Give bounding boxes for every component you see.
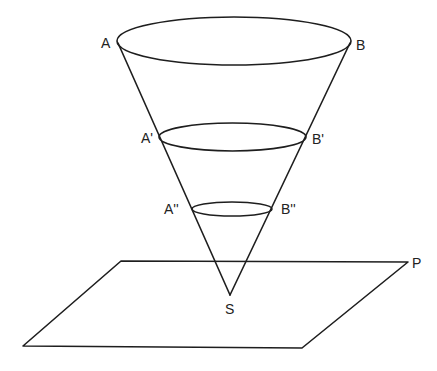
section-a2b2-ellipse: [192, 202, 272, 216]
plane-p: [23, 261, 408, 348]
label-p-plane: P: [412, 255, 421, 271]
cone-left-generatrix: [118, 43, 230, 295]
label-a-double-prime: A'': [164, 201, 179, 217]
cone-right-generatrix: [230, 43, 350, 295]
label-b-prime: B': [312, 131, 324, 147]
label-s-apex: S: [225, 301, 234, 317]
label-a: A: [101, 35, 111, 51]
section-a1b1-ellipse: [159, 123, 306, 151]
label-a-prime: A': [141, 130, 153, 146]
cone-diagram: A B A' B' A'' B'' S P: [0, 0, 437, 371]
label-b-double-prime: B'': [281, 201, 296, 217]
section-ab-ellipse: [117, 17, 351, 65]
label-b: B: [356, 37, 365, 53]
